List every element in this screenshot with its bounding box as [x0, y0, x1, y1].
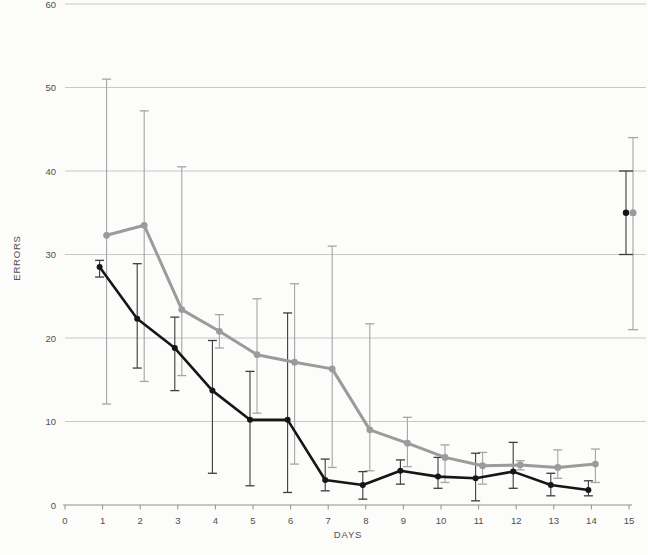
y-axis-title: ERRORS [11, 235, 22, 280]
y-tick-label: 30 [45, 249, 56, 260]
x-tick-label: 4 [213, 515, 218, 526]
y-tick-label: 60 [45, 0, 56, 10]
x-tick-label: 14 [586, 515, 597, 526]
y-tick-label: 0 [51, 500, 56, 511]
x-tick-label: 2 [138, 515, 143, 526]
gray-group-marker [442, 454, 449, 461]
x-tick-label: 0 [62, 515, 67, 526]
gray-group-marker [178, 306, 185, 313]
gray-group-marker [291, 359, 298, 366]
x-tick-label: 5 [250, 515, 255, 526]
y-tick-label: 40 [45, 166, 56, 177]
gray-group-marker [592, 461, 599, 468]
gray-group-marker [329, 365, 336, 372]
black-group-marker [172, 345, 178, 351]
y-tick-label: 50 [45, 82, 56, 93]
gray-group-marker [517, 462, 524, 469]
x-tick-label: 6 [288, 515, 293, 526]
black-group-marker [247, 417, 253, 423]
x-tick-label: 7 [326, 515, 331, 526]
gray-group-marker [479, 462, 486, 469]
black-group-marker [285, 417, 291, 423]
x-tick-label: 10 [436, 515, 447, 526]
x-tick-label: 3 [175, 515, 180, 526]
gray-group-marker [404, 440, 411, 447]
black-group-marker [322, 477, 328, 483]
black-group-marker [510, 469, 516, 475]
x-tick-label: 9 [401, 515, 406, 526]
gray-group-detached-marker [629, 209, 636, 216]
y-tick-label: 20 [45, 333, 56, 344]
black-group-line [100, 267, 589, 490]
x-tick-label: 8 [363, 515, 368, 526]
black-group-marker [209, 388, 215, 394]
gray-group-marker [141, 222, 148, 229]
black-group-marker [97, 264, 103, 270]
x-tick-label: 15 [624, 515, 635, 526]
x-tick-label: 11 [474, 515, 484, 526]
gray-group-marker [254, 351, 261, 358]
black-group-marker [548, 482, 554, 488]
black-group-marker [585, 487, 591, 493]
errors-vs-days-chart: 01020304050600123456789101112131415 [0, 0, 648, 555]
gray-group-line [107, 225, 596, 467]
x-tick-label: 13 [549, 515, 560, 526]
gray-group-marker [366, 426, 373, 433]
x-tick-label: 1 [100, 515, 105, 526]
black-group-detached-marker [623, 210, 629, 216]
x-axis-title: DAYS [317, 529, 379, 540]
x-tick-label: 12 [511, 515, 522, 526]
gray-group-marker [554, 464, 561, 471]
black-group-marker [435, 474, 441, 480]
figure-canvas: 01020304050600123456789101112131415 ERRO… [0, 0, 648, 555]
gray-group-marker [216, 328, 223, 335]
black-group-marker [360, 482, 366, 488]
y-tick-label: 10 [45, 416, 56, 427]
gray-group-marker [103, 232, 110, 239]
black-group-marker [397, 468, 403, 474]
black-group-marker [134, 316, 140, 322]
black-group-marker [473, 475, 479, 481]
